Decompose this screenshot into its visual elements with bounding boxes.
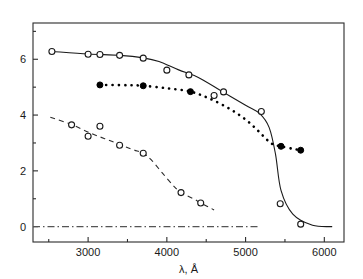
- y-tick-label: 2: [20, 165, 26, 177]
- data-point-upper-solid-curve: [85, 51, 91, 57]
- data-point-lower-dashed-curve: [85, 133, 91, 139]
- data-point-upper-solid-curve: [186, 72, 192, 78]
- data-point-lower-dashed-curve: [140, 150, 146, 156]
- data-point-upper-solid-curve: [277, 201, 283, 207]
- chart-canvas: 30004000500060000246λ, Å: [0, 0, 363, 279]
- y-tick-label: 4: [20, 109, 26, 121]
- data-point-lower-dashed-curve: [178, 190, 184, 196]
- series-line-lower-dashed-curve: [50, 117, 214, 210]
- x-tick-label: 6000: [312, 246, 336, 258]
- y-tick-label: 6: [20, 53, 26, 65]
- data-point-upper-solid-curve: [164, 67, 170, 73]
- data-point-upper-solid-curve: [97, 52, 103, 58]
- data-point-lower-dashed-curve: [198, 200, 204, 206]
- data-point-middle-dotted-curve: [278, 143, 284, 149]
- data-point-lower-dashed-curve: [97, 123, 103, 129]
- data-point-upper-solid-curve: [49, 48, 55, 54]
- figure-container: 30004000500060000246λ, Å: [0, 0, 363, 279]
- data-point-upper-solid-curve: [140, 55, 146, 61]
- data-curves-group: [50, 51, 332, 226]
- data-point-middle-dotted-curve: [187, 89, 193, 95]
- data-point-upper-solid-curve: [298, 221, 304, 227]
- data-point-lower-dashed-curve: [117, 142, 123, 148]
- data-point-upper-solid-curve: [117, 52, 123, 58]
- data-point-upper-solid-curve: [258, 108, 264, 114]
- data-markers-group: [49, 48, 304, 227]
- x-tick-label: 4000: [155, 246, 179, 258]
- data-point-lower-dashed-curve: [69, 122, 75, 128]
- data-point-upper-solid-curve: [221, 89, 227, 95]
- y-tick-label: 0: [20, 221, 26, 233]
- x-axis-title: λ, Å: [179, 263, 199, 275]
- data-point-upper-solid-curve: [211, 93, 217, 99]
- plot-frame: [33, 23, 344, 242]
- axis-group: [33, 23, 344, 242]
- x-tick-label: 5000: [233, 246, 257, 258]
- data-point-middle-dotted-curve: [140, 83, 146, 89]
- data-point-middle-dotted-curve: [298, 147, 304, 153]
- series-line-upper-solid-curve: [52, 51, 332, 226]
- x-tick-label: 3000: [76, 246, 100, 258]
- series-line-middle-dotted-curve: [100, 85, 301, 150]
- data-point-middle-dotted-curve: [97, 82, 103, 88]
